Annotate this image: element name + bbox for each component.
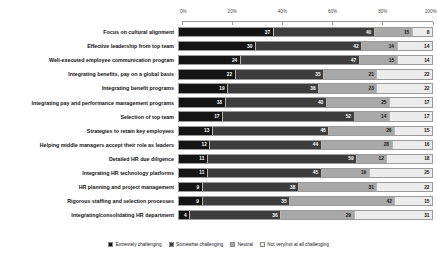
bar-segment-value: 26 [386, 128, 394, 133]
bar-segment: 31 [354, 211, 432, 219]
legend-label: Not very/not at all challenging [267, 242, 329, 247]
bar-segment-value: 8 [427, 30, 432, 35]
category-label: Detailed HR due diligence [0, 156, 178, 162]
bar-segment: 37 [179, 28, 273, 36]
category-label: Integrating benefit programs [0, 85, 178, 91]
bar-segment: 30 [179, 42, 255, 50]
bar-track: 13462615 [178, 126, 433, 136]
bar-segment: 17 [389, 98, 432, 106]
bar-segment: 14 [354, 112, 389, 120]
legend-item[interactable]: Extremely challenging [108, 242, 161, 247]
bar-segment: 12 [356, 155, 386, 163]
bar-segment: 19 [179, 84, 227, 92]
category-label: Integrating benefits, pay on a global ba… [0, 71, 178, 77]
bar-segment: 42 [289, 197, 394, 205]
category-label: Focus on cultural alignment [0, 29, 178, 35]
legend-item[interactable]: Not very/not at all challenging [260, 242, 329, 247]
bar-track: 9354215 [178, 196, 433, 206]
bar-segment: 24 [179, 56, 240, 64]
bar-segment-value: 14 [424, 44, 432, 49]
bar-track: 22352122 [178, 69, 433, 79]
category-label: Selection of top team [0, 114, 178, 120]
bar-segment-value: 42 [387, 199, 395, 204]
x-axis-tick-label: 0% [180, 9, 187, 14]
bar-segment: 35 [235, 70, 324, 78]
x-axis-tick-label: 100% [425, 9, 437, 14]
bar-segment: 22 [376, 183, 432, 191]
legend-item[interactable]: Neutral [230, 242, 253, 247]
x-axis-tick-label: 60% [328, 9, 337, 14]
bar-segment: 22 [179, 70, 235, 78]
bar-segment: 16 [392, 141, 432, 149]
bar-segment: 29 [280, 211, 353, 219]
bar-segment: 52 [222, 112, 354, 120]
bar-segment-value: 12 [202, 142, 210, 147]
bar-row: Strategies to retain key employees134626… [0, 124, 437, 138]
bar-segment: 25 [369, 169, 432, 177]
bar-segment-value: 22 [424, 185, 432, 190]
bar-segment-value: 17 [424, 100, 432, 105]
bar-segment-value: 12 [379, 156, 387, 161]
bar-track: 9383122 [178, 182, 433, 192]
bar-segment-value: 14 [424, 58, 432, 63]
bar-track: 18402517 [178, 97, 433, 107]
bar-segment: 40 [225, 98, 326, 106]
legend-label: Somewhat challenging [176, 242, 223, 247]
bar-segment: 45 [207, 169, 321, 177]
bar-segment-value: 35 [281, 199, 289, 204]
bar-track: 19362322 [178, 83, 433, 93]
bar-row: Helping middle managers accept their rol… [0, 138, 437, 152]
bar-segment: 14 [361, 42, 396, 50]
bar-segment-value: 14 [389, 44, 397, 49]
bar-row: Rigorous staffing and selection processe… [0, 194, 437, 208]
bar-track: 30421414 [178, 41, 433, 51]
bar-segment: 36 [189, 211, 280, 219]
bar-segment-value: 22 [424, 72, 432, 77]
bar-segment-value: 30 [247, 44, 255, 49]
bar-segment-value: 31 [424, 213, 432, 218]
bar-track: 11591218 [178, 154, 433, 164]
stacked-bar-chart: 0%20%40%60%80%100% Focus on cultural ali… [0, 0, 437, 261]
x-axis-tick-label: 40% [278, 9, 287, 14]
category-label: HR planning and project management [0, 184, 178, 190]
bar-segment: 11 [179, 169, 207, 177]
bar-track: 11451925 [178, 168, 433, 178]
bar-segment: 15 [374, 28, 412, 36]
bar-segment-value: 21 [368, 72, 376, 77]
legend-label: Extremely challenging [116, 242, 162, 247]
bar-row: Selection of top team17521417 [0, 110, 437, 124]
bar-track: 4362931 [178, 210, 433, 220]
bar-row: Integrating benefits, pay on a global ba… [0, 67, 437, 81]
bar-track: 3740158 [178, 27, 433, 37]
bar-segment-value: 37 [265, 30, 273, 35]
bar-row: Focus on cultural alignment3740158 [0, 25, 437, 39]
bar-segment-value: 14 [381, 114, 389, 119]
bar-segment-value: 46 [320, 128, 328, 133]
category-label: Helping middle managers accept their rol… [0, 142, 178, 148]
bar-segment: 15 [394, 127, 432, 135]
bar-segment-value: 25 [424, 170, 432, 175]
bar-segment-value: 18 [217, 100, 225, 105]
bar-segment: 11 [179, 155, 207, 163]
bar-segment-value: 40 [318, 100, 326, 105]
bar-segment: 22 [376, 84, 432, 92]
bar-segment: 59 [207, 155, 356, 163]
bar-segment: 21 [323, 70, 376, 78]
bar-segment-value: 36 [310, 86, 318, 91]
bar-segment: 8 [412, 28, 432, 36]
bar-segment-value: 45 [313, 170, 321, 175]
category-label: Effective leadership from top team [0, 43, 178, 49]
category-label: Rigorous staffing and selection processe… [0, 198, 178, 204]
bar-segment-value: 22 [227, 72, 235, 77]
bar-segment: 12 [179, 141, 209, 149]
bar-segment: 44 [209, 141, 320, 149]
bar-segment-value: 18 [424, 156, 432, 161]
bar-segment-value: 15 [424, 128, 432, 133]
bar-segment: 15 [394, 197, 432, 205]
legend-item[interactable]: Somewhat challenging [169, 242, 224, 247]
bar-track: 17521417 [178, 111, 433, 121]
bar-segment: 9 [179, 183, 202, 191]
category-label: Integrating/consolidating HR department [0, 212, 178, 218]
bar-segment: 17 [389, 112, 432, 120]
bar-segment-value: 19 [219, 86, 227, 91]
